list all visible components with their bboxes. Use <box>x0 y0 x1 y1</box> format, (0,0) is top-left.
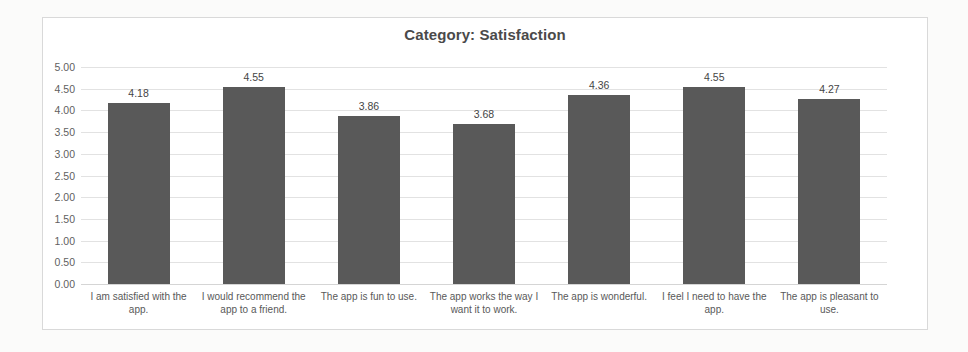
bar-value-label: 3.86 <box>359 100 379 112</box>
bar-slot: 3.68 <box>426 67 541 284</box>
bar[interactable] <box>108 103 170 284</box>
bars-group: 4.184.553.863.684.364.554.27 <box>81 67 887 284</box>
x-axis-category-label: I would recommend the app to a friend. <box>196 290 311 316</box>
x-axis-category-label: I am satisfied with the app. <box>81 290 196 316</box>
x-axis-category-label: I feel I need to have the app. <box>657 290 772 316</box>
y-axis-tick-label: 0.50 <box>55 256 75 268</box>
bar-slot: 4.55 <box>196 67 311 284</box>
plot-area: 5.004.504.003.503.002.502.001.501.000.50… <box>81 67 887 284</box>
bar-slot: 4.36 <box>542 67 657 284</box>
bar-value-label: 4.36 <box>589 79 609 91</box>
bar[interactable] <box>798 99 860 284</box>
y-axis-tick-label: 3.50 <box>55 126 75 138</box>
y-axis-tick-label: 1.50 <box>55 213 75 225</box>
y-axis-tick-label: 0.00 <box>55 278 75 290</box>
bar-slot: 4.55 <box>657 67 772 284</box>
bar-slot: 4.18 <box>81 67 196 284</box>
bar-value-label: 4.18 <box>128 87 148 99</box>
x-axis-category-labels: I am satisfied with the app.I would reco… <box>81 290 887 330</box>
x-axis-category-label: The app is wonderful. <box>542 290 657 303</box>
bar-slot: 4.27 <box>772 67 887 284</box>
y-axis-tick-label: 4.00 <box>55 104 75 116</box>
x-axis-category-label: The app works the way I want it to work. <box>426 290 541 316</box>
y-axis-tick-label: 2.50 <box>55 170 75 182</box>
x-axis-category-label: The app is fun to use. <box>311 290 426 303</box>
bar[interactable] <box>568 95 630 284</box>
chart-page: Category: Satisfaction 5.004.504.003.503… <box>0 0 968 352</box>
chart-title: Category: Satisfaction <box>43 26 927 43</box>
y-axis-tick-label: 4.50 <box>55 83 75 95</box>
x-axis-category-label: The app is pleasant to use. <box>772 290 887 316</box>
chart-frame: Category: Satisfaction 5.004.504.003.503… <box>42 17 928 330</box>
y-axis-tick-label: 5.00 <box>55 61 75 73</box>
bar-value-label: 4.27 <box>819 83 839 95</box>
bar-value-label: 3.68 <box>474 108 494 120</box>
bar[interactable] <box>223 87 285 284</box>
y-axis-tick-label: 1.00 <box>55 235 75 247</box>
y-axis-tick-label: 3.00 <box>55 148 75 160</box>
bar[interactable] <box>453 124 515 284</box>
bar-value-label: 4.55 <box>704 71 724 83</box>
bar[interactable] <box>683 87 745 284</box>
y-axis-tick-label: 2.00 <box>55 191 75 203</box>
gridline <box>81 284 887 285</box>
bar-slot: 3.86 <box>311 67 426 284</box>
bar-value-label: 4.55 <box>243 71 263 83</box>
bar[interactable] <box>338 116 400 284</box>
